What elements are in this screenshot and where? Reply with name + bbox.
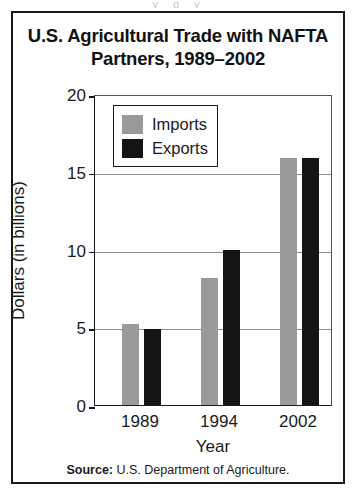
legend-swatch-exports xyxy=(122,139,143,158)
source-label: Source: xyxy=(66,463,113,477)
figure-frame: U.S. Agricultural Trade with NAFTA Partn… xyxy=(11,11,345,484)
scan-artifact-text: y g y xyxy=(0,0,358,8)
bar-imports-2002 xyxy=(280,158,297,405)
y-tick-label-10: 10 xyxy=(67,242,86,262)
legend-swatch-imports xyxy=(122,115,143,134)
x-tick-label-2002: 2002 xyxy=(279,412,317,432)
y-tick-label-20: 20 xyxy=(67,86,86,106)
x-tick-label-1989: 1989 xyxy=(121,412,159,432)
y-tick-label-0: 0 xyxy=(77,397,86,417)
chart-legend: ImportsExports xyxy=(113,105,218,167)
y-tick-mark-5 xyxy=(89,329,95,331)
source-note: Source: U.S. Department of Agriculture. xyxy=(13,463,343,477)
y-tick-label-15: 15 xyxy=(67,164,86,184)
legend-item-exports: Exports xyxy=(122,136,210,160)
y-tick-mark-10 xyxy=(89,252,95,254)
bar-exports-1989 xyxy=(144,329,161,405)
source-value: U.S. Department of Agriculture. xyxy=(113,463,289,477)
y-tick-mark-0 xyxy=(89,407,95,409)
y-tick-mark-20 xyxy=(89,96,95,98)
y-tick-label-5: 5 xyxy=(77,319,86,339)
plot-area: 05101520 ImportsExports xyxy=(94,95,332,406)
bar-imports-1994 xyxy=(201,278,218,406)
legend-label-imports: Imports xyxy=(152,115,207,134)
bar-imports-1989 xyxy=(122,324,139,405)
x-tick-label-1994: 1994 xyxy=(200,412,238,432)
legend-item-imports: Imports xyxy=(122,112,210,136)
y-axis-title: Dollars (in billions) xyxy=(9,95,35,406)
chart-title: U.S. Agricultural Trade with NAFTA Partn… xyxy=(13,25,343,70)
x-axis-title: Year xyxy=(94,437,332,457)
y-tick-mark-15 xyxy=(89,174,95,176)
bar-exports-2002 xyxy=(302,158,319,405)
legend-label-exports: Exports xyxy=(152,139,208,158)
bar-exports-1994 xyxy=(223,250,240,406)
